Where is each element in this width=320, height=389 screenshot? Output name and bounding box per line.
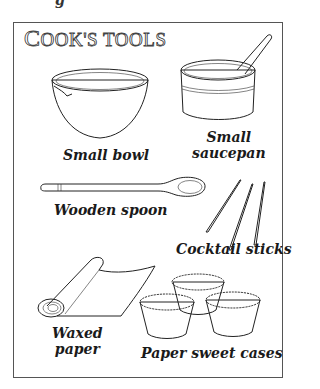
saucepan-label: Small saucepan — [192, 129, 266, 161]
small-bowl-label: Small bowl — [63, 147, 149, 163]
wooden-spoon-label: Wooden spoon — [54, 202, 168, 218]
paper-cases-icon — [138, 272, 266, 344]
waxed-paper-label: Waxed paper — [52, 325, 103, 357]
title-initial: C — [24, 25, 41, 51]
saucepan-label-line2: saucepan — [192, 145, 266, 161]
waxed-paper-label-line2: paper — [52, 341, 103, 357]
bowl-icon — [50, 66, 150, 146]
waxed-paper-label-line1: Waxed — [52, 325, 103, 341]
cocktail-sticks-label: Cocktail sticks — [176, 241, 292, 257]
saucepan-icon — [175, 30, 275, 125]
cropped-heading-fragment: g — [55, 0, 65, 8]
title-rest: OOK'S TOOLS — [41, 29, 167, 50]
page-title: COOK'S TOOLS — [24, 25, 166, 52]
paper-sweet-cases-label: Paper sweet cases — [141, 345, 283, 361]
saucepan-label-line1: Small — [192, 129, 266, 145]
